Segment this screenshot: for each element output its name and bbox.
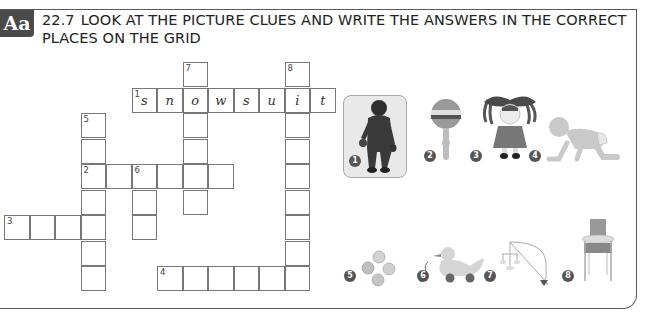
clue-number-label: 2 (84, 165, 89, 175)
crossword-cell[interactable] (30, 215, 56, 240)
answer-letter: s (133, 93, 157, 108)
crossword-cell[interactable] (285, 139, 311, 164)
crossword-cell[interactable]: s (234, 88, 260, 113)
crossword-cell[interactable] (81, 139, 107, 164)
clue-number-7: 7 (484, 270, 496, 282)
crossword-cell[interactable]: t (310, 88, 336, 113)
cot-mobile-icon (500, 240, 552, 288)
crossword-cell[interactable]: 7 (183, 62, 209, 87)
vocabulary-badge: Aa (0, 10, 34, 37)
crossword-cell[interactable] (132, 190, 158, 215)
clue-number-4: 4 (529, 150, 541, 162)
answer-letter: w (209, 93, 233, 108)
doll-icon (480, 92, 540, 160)
crossword-cell[interactable] (285, 190, 311, 215)
clue-number-label: 4 (160, 267, 165, 277)
marbles-icon (359, 250, 399, 290)
exercise-number: 22.7 (42, 12, 75, 28)
crossword-cell[interactable] (285, 113, 311, 138)
answer-letter: n (158, 93, 182, 108)
crossword-cell[interactable]: 3 (4, 215, 30, 240)
crossword-cell[interactable]: 6 (132, 164, 158, 189)
clue-number-5: 5 (344, 270, 356, 282)
clue-number-6: 6 (417, 270, 429, 282)
crossword-cell[interactable]: 2 (81, 164, 107, 189)
crossword-cell[interactable]: 1s (132, 88, 158, 113)
crossword-cell[interactable] (81, 215, 107, 240)
clue-number-label: 6 (135, 165, 140, 175)
answer-letter: u (260, 93, 284, 108)
crossword-cell[interactable] (81, 190, 107, 215)
answer-letter: o (184, 93, 208, 108)
crossword-cell[interactable] (183, 139, 209, 164)
crossword-cell[interactable] (208, 164, 234, 189)
crossword-cell[interactable] (106, 164, 132, 189)
crossword-cell[interactable] (208, 266, 234, 291)
answer-letter: i (286, 93, 310, 108)
crossword-cell[interactable] (183, 266, 209, 291)
crossword-cell[interactable] (55, 215, 81, 240)
crossword-cell[interactable]: i (285, 88, 311, 113)
answer-letter: s (235, 93, 259, 108)
crossword-cell[interactable] (132, 215, 158, 240)
clue-number-label: 8 (288, 63, 293, 73)
crossword-cell[interactable]: 8 (285, 62, 311, 87)
crossword-cell[interactable] (183, 190, 209, 215)
crossword-cell[interactable]: w (208, 88, 234, 113)
crossword-cell[interactable] (234, 266, 260, 291)
crossword-cell[interactable]: 5 (81, 113, 107, 138)
answer-letter: t (311, 93, 335, 108)
crossword-cell[interactable]: o (183, 88, 209, 113)
exercise-title: 22.7LOOK AT THE PICTURE CLUES AND WRITE … (42, 11, 632, 47)
clue-number-1: 1 (349, 155, 361, 167)
crossword-cell[interactable] (183, 164, 209, 189)
crossword-cell[interactable] (259, 266, 285, 291)
clue-number-label: 7 (186, 63, 191, 73)
clue-number-label: 5 (84, 114, 89, 124)
crossword-cell[interactable]: u (259, 88, 285, 113)
crossword-cell[interactable] (81, 266, 107, 291)
crossword-cell[interactable] (285, 215, 311, 240)
snowsuit-child-icon (355, 98, 400, 176)
clue-number-3: 3 (470, 150, 482, 162)
pull-along-duck-icon (418, 244, 488, 286)
clue-number-label: 3 (7, 216, 12, 226)
crossword-cell[interactable] (285, 164, 311, 189)
crossword-cell[interactable] (81, 241, 107, 266)
crossword-cell[interactable] (285, 241, 311, 266)
clue-number-8: 8 (562, 270, 574, 282)
crossword-cell[interactable] (285, 266, 311, 291)
crossword-cell[interactable] (157, 164, 183, 189)
crossword-cell[interactable]: n (157, 88, 183, 113)
crossword-cell[interactable]: 4 (157, 266, 183, 291)
clue-number-2: 2 (424, 150, 436, 162)
crawling-baby-icon (545, 115, 620, 165)
exercise-instruction: LOOK AT THE PICTURE CLUES AND WRITE THE … (42, 12, 627, 46)
crossword-cell[interactable] (183, 113, 209, 138)
high-chair-icon (580, 219, 616, 283)
